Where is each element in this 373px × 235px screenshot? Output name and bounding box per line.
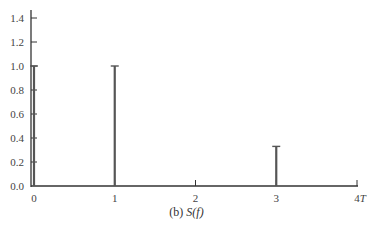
y-tick-label: 0.0 <box>10 180 24 192</box>
stem-chart: 0.00.20.40.60.81.01.21.401234T <box>0 0 373 235</box>
y-tick-label: 1.2 <box>10 36 24 48</box>
x-tick-label: 3 <box>274 192 280 204</box>
y-tick-label: 0.6 <box>10 108 24 120</box>
y-tick-label: 1.4 <box>10 12 24 24</box>
x-tick-label: 1 <box>112 192 118 204</box>
y-tick-label: 1.0 <box>10 60 24 72</box>
y-tick-label: 0.8 <box>10 84 24 96</box>
x-tick-label: 2 <box>193 192 199 204</box>
y-tick-label: 0.2 <box>10 156 24 168</box>
caption-prefix: (b) <box>169 205 186 219</box>
x-tick-label: 4T <box>354 192 367 204</box>
chart-caption: (b) S(f) <box>0 205 373 220</box>
y-tick-label: 0.4 <box>10 132 24 144</box>
x-tick-label: 0 <box>31 192 37 204</box>
caption-function: S(f) <box>186 205 203 219</box>
